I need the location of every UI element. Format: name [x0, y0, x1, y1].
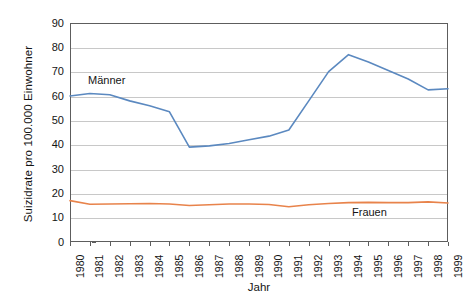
x-tick-label: 1990 [273, 255, 284, 278]
x-tick-mark [110, 242, 111, 246]
x-tick-mark [130, 242, 131, 246]
x-tick-mark [269, 242, 270, 246]
line-chart: Suizidrate pro 100.000 Einwohner 0102030… [0, 0, 474, 305]
x-tick-mark [368, 242, 369, 246]
y-tick-label: 50 [26, 115, 64, 126]
x-tick-mark [150, 242, 151, 246]
x-tick-label: 1984 [154, 255, 165, 278]
x-tick-label: 1985 [174, 255, 185, 278]
y-tick-label: 30 [26, 164, 64, 175]
x-tick-label: 1997 [413, 255, 424, 278]
y-tick-label: 80 [26, 42, 64, 53]
y-tick-label: 10 [26, 212, 64, 223]
x-tick-label: 1980 [75, 255, 86, 278]
x-tick-mark [209, 242, 210, 246]
x-tick-label: 1994 [353, 255, 364, 278]
y-tick-label: 60 [26, 91, 64, 102]
x-tick-label: 1995 [373, 255, 384, 278]
series-line-frauen [70, 201, 448, 207]
x-tick-label: 1998 [433, 255, 444, 278]
x-axis-tick-labels: 1980198119821983198419851986198719881989… [0, 242, 474, 302]
x-tick-mark [448, 242, 449, 246]
x-tick-label: 1981 [94, 255, 105, 278]
y-tick-label: 20 [26, 188, 64, 199]
x-tick-mark [249, 242, 250, 246]
series-lines [70, 23, 448, 242]
x-tick-label: 1983 [134, 255, 145, 278]
x-tick-label: 1982 [114, 255, 125, 278]
series-label-frauen: Frauen [352, 206, 387, 218]
x-tick-label: 1993 [333, 255, 344, 278]
x-tick-mark [189, 242, 190, 246]
x-tick-label: 1991 [293, 255, 304, 278]
series-line-maenner [70, 55, 448, 147]
x-tick-label: 1989 [254, 255, 265, 278]
x-tick-label: 1986 [194, 255, 205, 278]
x-tick-mark [90, 242, 91, 246]
y-tick-label: 40 [26, 139, 64, 150]
x-tick-label: 1987 [214, 255, 225, 278]
x-tick-mark [169, 242, 170, 246]
x-tick-label: 1999 [453, 255, 464, 278]
x-tick-mark [289, 242, 290, 246]
x-tick-mark [408, 242, 409, 246]
y-tick-label: 90 [26, 18, 64, 29]
x-tick-label: 1996 [393, 255, 404, 278]
x-axis-title: Jahr [70, 281, 448, 293]
series-label-maenner: Männer [88, 74, 125, 86]
x-tick-mark [349, 242, 350, 246]
x-tick-mark [428, 242, 429, 246]
x-tick-mark [70, 242, 71, 246]
x-tick-mark [329, 242, 330, 246]
x-tick-mark [229, 242, 230, 246]
x-tick-mark [388, 242, 389, 246]
x-tick-label: 1988 [234, 255, 245, 278]
y-tick-label: 70 [26, 66, 64, 77]
x-tick-label: 1992 [313, 255, 324, 278]
x-tick-mark [309, 242, 310, 246]
